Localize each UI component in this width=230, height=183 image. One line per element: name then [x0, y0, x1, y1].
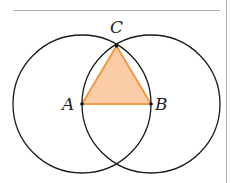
equilateral-triangle-abc: [82, 46, 151, 104]
point-C: [115, 44, 119, 48]
point-B: [149, 102, 153, 106]
label-B: B: [154, 94, 168, 114]
label-A: A: [60, 94, 74, 114]
diagram-canvas: A B C: [0, 0, 230, 183]
label-C: C: [110, 17, 123, 37]
point-A: [80, 102, 84, 106]
